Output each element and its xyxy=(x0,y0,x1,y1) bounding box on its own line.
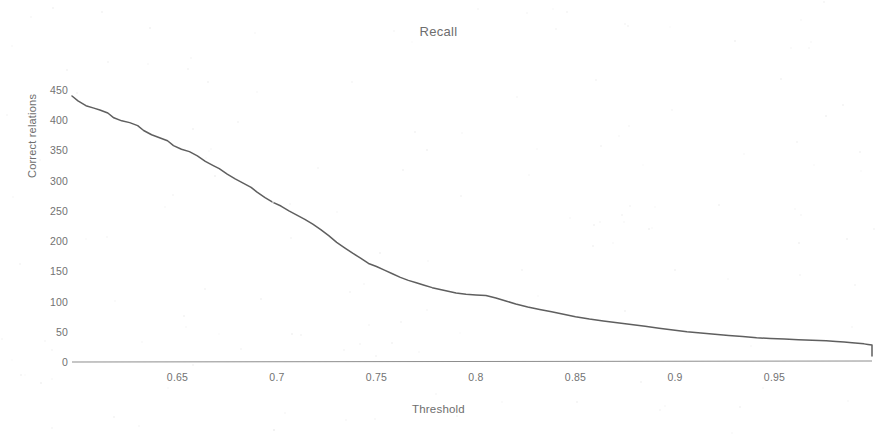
recall-chart: Recall Correct relations Threshold 05010… xyxy=(0,0,877,439)
plot-area xyxy=(0,0,877,439)
x-axis-line xyxy=(72,361,872,362)
recall-data-line xyxy=(72,96,872,356)
